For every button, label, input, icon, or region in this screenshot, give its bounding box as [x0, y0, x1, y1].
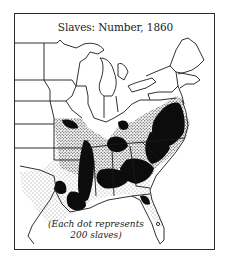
- map-title: Slaves: Number, 1860: [0, 21, 231, 33]
- map-legend-caption: (Each dot represents 200 slaves): [40, 219, 152, 241]
- legend-line-2: 200 slaves): [40, 230, 152, 241]
- legend-line-1: (Each dot represents: [40, 219, 152, 230]
- map-content: [15, 38, 204, 244]
